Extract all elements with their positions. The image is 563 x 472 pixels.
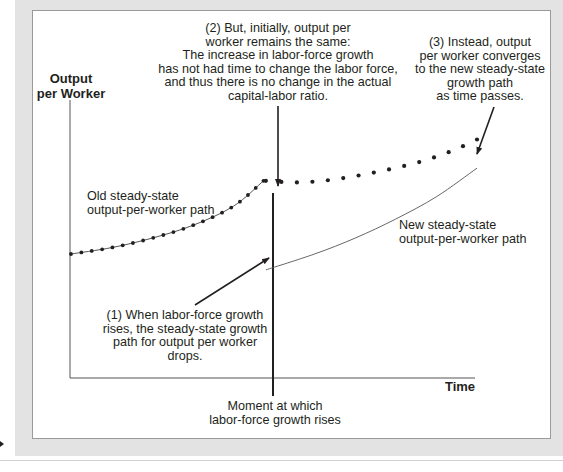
- old-path-dot: [246, 193, 250, 197]
- transition-dot: [447, 150, 451, 154]
- moment-label: Moment at which labor-force growth rises: [200, 400, 350, 427]
- transition-dot: [341, 176, 345, 180]
- x-axis-label: Time: [440, 380, 480, 394]
- old-path-dot: [131, 241, 135, 245]
- old-path-dot: [151, 236, 155, 240]
- old-path-dot: [121, 243, 125, 247]
- note2-line: The increase in labor-force growth: [158, 49, 398, 63]
- old-path-dot: [111, 246, 115, 250]
- new-path-label: New steady-state output-per-worker path: [399, 219, 526, 246]
- old-path-dot: [141, 239, 145, 243]
- annotation-note3: (3) Instead, output per worker converges…: [410, 36, 550, 104]
- transition-dot: [432, 155, 436, 159]
- note3-line: (3) Instead, output: [410, 36, 550, 50]
- note1-line: drops.: [100, 350, 270, 364]
- note1-line: rises, the steady-state growth: [100, 323, 270, 337]
- note3-line: as time passes.: [410, 90, 550, 104]
- transition-dot: [402, 164, 406, 168]
- y-axis-label-line1: Output: [34, 71, 108, 86]
- old-path-label: Old steady-state output-per-worker path: [87, 190, 214, 217]
- old-path-dot: [161, 233, 165, 237]
- old-path-dot: [229, 206, 233, 210]
- y-axis-label-line2: per Worker: [34, 86, 108, 101]
- transition-dot: [461, 144, 465, 148]
- old-path-dot: [181, 227, 185, 231]
- note2-line: worker remains the same:: [158, 36, 398, 50]
- transition-dot: [417, 160, 421, 164]
- note2-line: has not had time to change the labor for…: [158, 63, 398, 77]
- note3-line: per worker converges: [410, 50, 550, 64]
- new-path-label-line: output-per-worker path: [399, 233, 526, 247]
- note3-line: growth path: [410, 77, 550, 91]
- transition-dot: [475, 137, 479, 141]
- transition-dot: [387, 167, 391, 171]
- note3-line: to the new steady-state: [410, 63, 550, 77]
- old-path-dot: [238, 200, 242, 204]
- transition-dot: [279, 180, 283, 184]
- transition-dot: [295, 180, 299, 184]
- old-path-dot: [201, 219, 205, 223]
- transition-dot: [264, 179, 268, 183]
- old-path-label-line: Old steady-state: [87, 190, 214, 204]
- y-axis-label: Output per Worker: [34, 71, 108, 101]
- new-path-label-line: New steady-state: [399, 219, 526, 233]
- annotation-note2: (2) But, initially, output per worker re…: [158, 22, 398, 104]
- moment-label-line: Moment at which: [200, 400, 350, 414]
- note2-line: capital-labor ratio.: [158, 90, 398, 104]
- transition-dot: [356, 173, 360, 177]
- arrow-note1: [195, 258, 269, 305]
- old-path-dot: [100, 247, 104, 251]
- old-path-dot: [172, 230, 176, 234]
- old-path-dot: [254, 186, 258, 190]
- arrow-note3: [477, 107, 494, 154]
- note2-line: and thus there is no change in the actua…: [158, 76, 398, 90]
- old-path-label-line: output-per-worker path: [87, 204, 214, 218]
- annotation-note1: (1) When labor-force growth rises, the s…: [100, 309, 270, 363]
- old-path-dot: [69, 252, 73, 256]
- moment-label-line: labor-force growth rises: [200, 414, 350, 428]
- transition-dot: [372, 171, 376, 175]
- transition-dot: [326, 178, 330, 182]
- old-path-dot: [191, 223, 195, 227]
- old-path-dot: [90, 249, 94, 253]
- note1-line: path for output per worker: [100, 336, 270, 350]
- note1-line: (1) When labor-force growth: [100, 309, 270, 323]
- old-path-dot: [220, 211, 224, 215]
- note2-line: (2) But, initially, output per: [158, 22, 398, 36]
- transition-dots: [264, 137, 479, 184]
- old-path-dot: [79, 251, 83, 255]
- transition-dot: [310, 180, 314, 184]
